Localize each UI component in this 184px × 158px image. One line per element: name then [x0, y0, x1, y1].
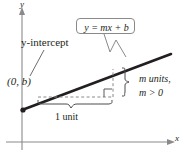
y-intercept-label: y-intercept	[21, 37, 69, 49]
equation-callout-tail	[104, 34, 126, 57]
slope-intercept-figure: y x y-intercept (0, b) y = mx + b m unit…	[0, 0, 184, 158]
equation-callout-box: y = mx + b	[76, 18, 135, 34]
right-angle-marker	[104, 89, 112, 97]
y-axis-label: y	[20, 0, 24, 9]
rise-label: m units,	[139, 74, 171, 85]
y-intercept-point	[20, 107, 25, 112]
slope-triangle-guides	[38, 69, 113, 97]
run-label: 1 unit	[55, 112, 78, 123]
y-intercept-leader-line	[30, 50, 44, 76]
equation-label: y = mx + b	[77, 19, 136, 35]
x-axis-label: x	[175, 134, 179, 143]
y-intercept-point-label: (0, b)	[7, 76, 31, 88]
slope-condition-label: m > 0	[139, 88, 163, 99]
x-axis-arrowhead	[167, 139, 175, 145]
